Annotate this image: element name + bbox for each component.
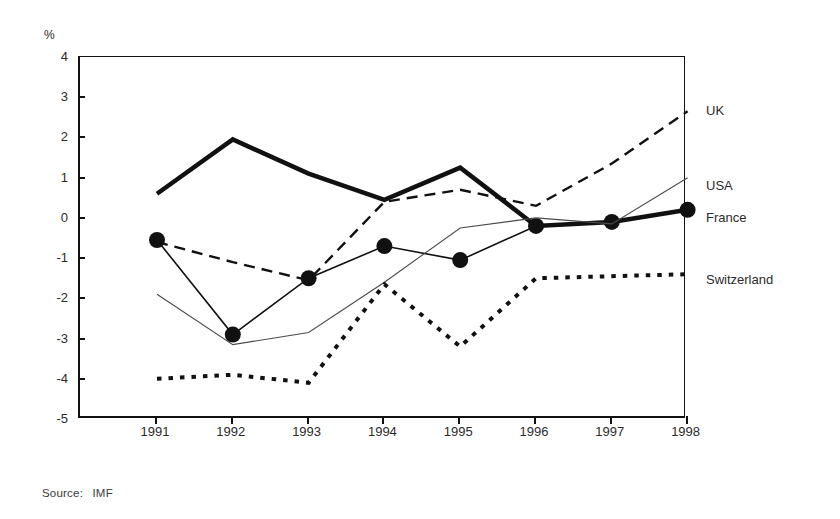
x-tick-label: 1993 — [277, 424, 337, 439]
chart-figure: % 43210-1-2-3-4-5 1991199219931994199519… — [0, 0, 840, 519]
series-line-france-thin-trend — [157, 178, 688, 345]
series-lines — [80, 57, 687, 419]
series-label-usa: USA — [706, 178, 733, 193]
series-label-france: France — [706, 210, 746, 225]
x-tick-label: 1996 — [504, 424, 564, 439]
series-marker — [680, 202, 696, 218]
x-tick-label: 1995 — [428, 424, 488, 439]
y-tick-label: 0 — [34, 209, 68, 224]
y-tick-label: 2 — [34, 129, 68, 144]
series-marker — [528, 218, 544, 234]
x-tick-label: 1998 — [656, 424, 716, 439]
series-marker — [604, 214, 620, 230]
series-marker — [149, 232, 165, 248]
y-tick-label: 1 — [34, 169, 68, 184]
series-marker — [452, 252, 468, 268]
source-note: Source: IMF — [42, 487, 113, 499]
y-axis-unit-label: % — [44, 28, 55, 42]
y-tick-label: -5 — [34, 411, 68, 426]
y-tick-label: 4 — [34, 49, 68, 64]
source-value: IMF — [92, 487, 112, 499]
x-tick-label: 1997 — [580, 424, 640, 439]
source-prefix: Source: — [42, 487, 83, 499]
series-label-switzerland: Switzerland — [706, 272, 773, 287]
y-tick-label: -4 — [34, 370, 68, 385]
y-tick-label: -3 — [34, 330, 68, 345]
y-tick-label: -2 — [34, 290, 68, 305]
x-tick-label: 1991 — [125, 424, 185, 439]
series-line-uk — [157, 139, 688, 225]
y-tick-label: -1 — [34, 250, 68, 265]
x-tick-label: 1994 — [352, 424, 412, 439]
plot-area — [78, 56, 685, 418]
series-marker — [225, 327, 241, 343]
series-marker — [301, 270, 317, 286]
series-label-uk: UK — [706, 103, 724, 118]
series-marker — [376, 238, 392, 254]
x-tick-label: 1992 — [201, 424, 261, 439]
y-tick-label: 3 — [34, 89, 68, 104]
